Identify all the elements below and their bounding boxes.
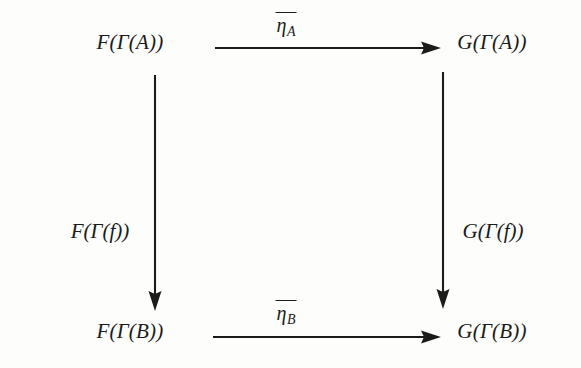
vertex-top-left: F(Γ(A)) xyxy=(97,30,164,55)
arrow-label-right: G(Γ(f)) xyxy=(463,219,524,244)
vertex-bottom-right: G(Γ(B)) xyxy=(457,319,526,344)
vertex-bottom-left: F(Γ(B)) xyxy=(97,319,164,344)
arrow-right-g-gamma-f xyxy=(437,72,450,309)
eta-bar-b: ηB xyxy=(276,300,297,328)
eta-glyph-a: η xyxy=(277,14,287,36)
arrow-left-head xyxy=(149,291,162,311)
arrow-bottom-head xyxy=(421,331,441,344)
vertex-top-right: G(Γ(A)) xyxy=(457,30,526,55)
arrow-label-top: ηA xyxy=(276,12,297,40)
commutative-diagram: F(Γ(A)) G(Γ(A)) F(Γ(B)) G(Γ(B)) F(Γ(f)) … xyxy=(0,0,581,368)
eta-subscript-a: A xyxy=(287,24,296,39)
eta-bar-a: ηA xyxy=(276,12,297,40)
eta-glyph-b: η xyxy=(277,302,287,324)
arrow-right-head xyxy=(437,289,450,309)
arrow-top-eta-a xyxy=(215,42,441,55)
arrow-left-f-gamma-f xyxy=(149,75,162,311)
arrow-label-bottom: ηB xyxy=(276,300,297,328)
arrow-top-head xyxy=(421,42,441,55)
arrow-label-left: F(Γ(f)) xyxy=(71,219,130,244)
arrow-bottom-eta-b xyxy=(213,331,441,344)
eta-subscript-b: B xyxy=(287,312,296,327)
